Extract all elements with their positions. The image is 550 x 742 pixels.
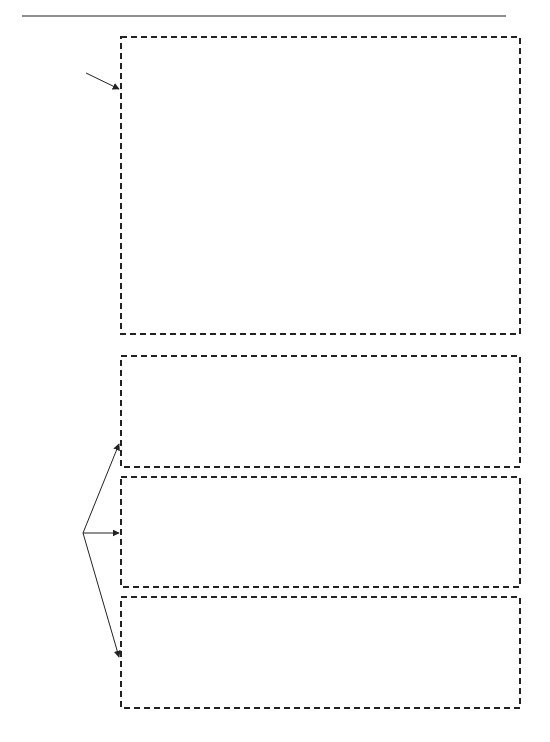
annotation-arrow xyxy=(86,73,119,89)
segment-box-engineering xyxy=(121,356,520,467)
bottom-annotation xyxy=(83,444,119,657)
network-diagram xyxy=(0,0,550,742)
segment-box-sales xyxy=(121,477,520,587)
top-annotation xyxy=(86,73,119,89)
segment-box-management xyxy=(121,597,520,708)
hub-collision-domain-box xyxy=(121,37,520,334)
annotation-arrow-engineering xyxy=(83,444,119,533)
annotation-arrow-management xyxy=(83,533,119,657)
